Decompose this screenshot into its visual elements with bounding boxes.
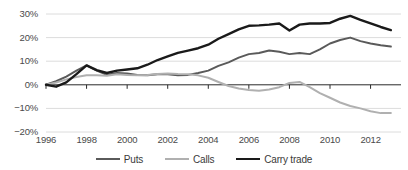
y-axis-tick-label: 0% — [4, 79, 38, 90]
x-axis-tick-label: 2006 — [232, 134, 266, 145]
legend-swatch — [96, 158, 120, 160]
line-chart: 30%20%10%0%−10%−20% 19961998200020022004… — [0, 0, 408, 170]
x-axis-tick-label: 2012 — [354, 134, 388, 145]
legend-swatch — [165, 158, 189, 160]
chart-legend: PutsCallsCarry trade — [0, 150, 408, 168]
data-series-group — [46, 16, 391, 113]
legend-swatch — [236, 158, 260, 160]
x-axis-tick-label: 1998 — [70, 134, 104, 145]
x-axis-tick-label: 1996 — [29, 134, 63, 145]
legend-label: Puts — [124, 154, 143, 165]
legend-item-calls[interactable]: Calls — [165, 154, 214, 165]
y-axis-tick-label: 10% — [4, 55, 38, 66]
legend-item-puts[interactable]: Puts — [96, 154, 143, 165]
x-axis-tick-label: 2004 — [191, 134, 225, 145]
series-line-calls — [46, 73, 391, 113]
x-axis-tick-label: 2000 — [110, 134, 144, 145]
x-axis-tick-label: 2010 — [313, 134, 347, 145]
x-axis-tick-label: 2008 — [272, 134, 306, 145]
legend-label: Calls — [193, 154, 214, 165]
gridlines — [46, 14, 401, 132]
y-axis-tick-label: 30% — [4, 8, 38, 19]
x-axis-tick-label: 2002 — [151, 134, 185, 145]
legend-label: Carry trade — [264, 154, 312, 165]
y-axis-tick-label: −10% — [4, 102, 38, 113]
y-axis-tick-label: 20% — [4, 32, 38, 43]
legend-item-carry-trade[interactable]: Carry trade — [236, 154, 312, 165]
x-axis-tick-marks — [46, 85, 371, 89]
